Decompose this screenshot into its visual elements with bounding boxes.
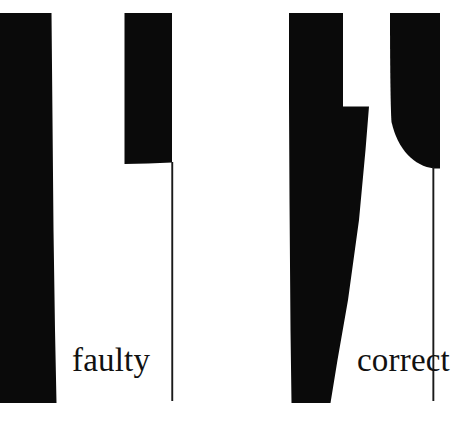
comparison-figure: faulty correct [0, 0, 461, 432]
faulty-right-block [125, 13, 173, 164]
caption-correct: correct [357, 344, 450, 377]
faulty-centerline [171, 162, 173, 401]
caption-faulty: faulty [72, 344, 150, 377]
faulty-left-block [0, 13, 57, 403]
